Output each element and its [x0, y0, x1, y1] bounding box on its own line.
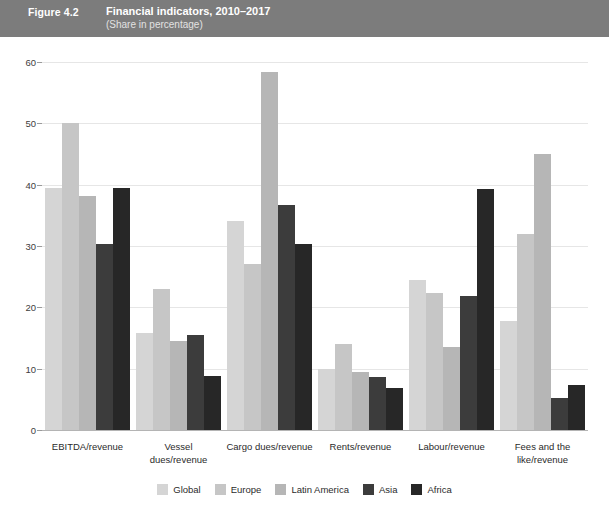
bar[interactable]: [96, 244, 113, 430]
legend-item[interactable]: Africa: [411, 484, 451, 495]
y-axis-tick: [37, 307, 42, 308]
bar-group: [227, 62, 312, 430]
bar-group: [45, 62, 130, 430]
legend-item[interactable]: Europe: [215, 484, 262, 495]
bar[interactable]: [386, 388, 403, 430]
bar[interactable]: [261, 72, 278, 430]
figure-title: Financial indicators, 2010–2017: [106, 5, 270, 17]
legend-swatch-icon: [275, 484, 286, 495]
bar-group: [409, 62, 494, 430]
legend-swatch-icon: [215, 484, 226, 495]
chart-area: 0102030405060 EBITDA/revenueVessel dues/…: [0, 37, 609, 508]
legend-swatch-icon: [411, 484, 422, 495]
bar[interactable]: [45, 188, 62, 430]
legend-swatch-icon: [157, 484, 168, 495]
bar[interactable]: [568, 385, 585, 430]
y-axis-tick: [37, 123, 42, 124]
bar[interactable]: [204, 376, 221, 430]
y-axis-tick-label: 50: [10, 118, 36, 129]
legend-label: Europe: [231, 484, 262, 495]
bar[interactable]: [227, 221, 244, 430]
x-axis-category-label: Fees and the like/revenue: [487, 441, 598, 466]
bar[interactable]: [153, 289, 170, 430]
bar-group: [136, 62, 221, 430]
bar[interactable]: [170, 341, 187, 430]
bar[interactable]: [278, 205, 295, 430]
bar[interactable]: [460, 296, 477, 430]
y-axis-tick: [37, 246, 42, 247]
bar[interactable]: [426, 293, 443, 430]
bar[interactable]: [551, 398, 568, 430]
y-axis-tick-label: 0: [10, 425, 36, 436]
figure-number: Figure 4.2: [28, 6, 79, 18]
bar[interactable]: [352, 372, 369, 430]
legend-item[interactable]: Global: [157, 484, 200, 495]
gridline: [42, 430, 588, 431]
bar[interactable]: [136, 333, 153, 430]
y-axis-tick: [37, 185, 42, 186]
bar[interactable]: [409, 280, 426, 430]
bar[interactable]: [369, 377, 386, 430]
legend-label: Asia: [379, 484, 397, 495]
y-axis-tick-label: 40: [10, 179, 36, 190]
bar[interactable]: [79, 196, 96, 430]
bar[interactable]: [318, 369, 335, 430]
chart-legend: GlobalEuropeLatin AmericaAsiaAfrica: [0, 478, 609, 500]
legend-label: Latin America: [291, 484, 349, 495]
bar[interactable]: [295, 244, 312, 430]
bar-group: [318, 62, 403, 430]
bar[interactable]: [62, 123, 79, 430]
legend-label: Global: [173, 484, 200, 495]
y-axis-labels: 0102030405060: [6, 62, 36, 430]
figure-subtitle: (Share in percentage): [106, 19, 203, 30]
bar[interactable]: [187, 335, 204, 430]
y-axis-tick-label: 30: [10, 241, 36, 252]
bar[interactable]: [534, 154, 551, 430]
legend-item[interactable]: Latin America: [275, 484, 349, 495]
legend-label: Africa: [427, 484, 451, 495]
y-axis-tick-label: 60: [10, 57, 36, 68]
plot-area: [42, 62, 588, 430]
y-axis-tick: [37, 430, 42, 431]
bar[interactable]: [500, 321, 517, 430]
bar-group: [500, 62, 585, 430]
bar[interactable]: [113, 188, 130, 430]
y-axis-tick: [37, 62, 42, 63]
bar[interactable]: [335, 344, 352, 430]
y-axis-tick-label: 20: [10, 302, 36, 313]
bar[interactable]: [477, 189, 494, 430]
bar[interactable]: [517, 234, 534, 430]
figure-header-band: Figure 4.2 Financial indicators, 2010–20…: [0, 0, 609, 37]
bar[interactable]: [244, 264, 261, 430]
legend-item[interactable]: Asia: [363, 484, 397, 495]
legend-swatch-icon: [363, 484, 374, 495]
y-axis-tick-label: 10: [10, 363, 36, 374]
bar[interactable]: [443, 347, 460, 430]
y-axis-tick: [37, 369, 42, 370]
